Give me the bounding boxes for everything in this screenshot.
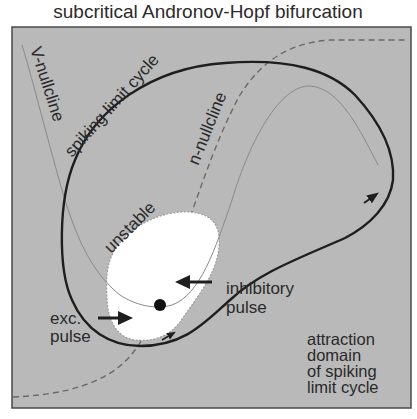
inhibitory-pulse-label: inhibitory xyxy=(226,279,295,298)
exc-pulse-label: pulse xyxy=(50,327,91,346)
attraction-domain-label: limit cycle xyxy=(307,378,379,396)
inhibitory-pulse-label: pulse xyxy=(226,298,267,317)
stable-fixed-point xyxy=(154,299,166,311)
figure-title: subcritical Andronov-Hopf bifurcation xyxy=(53,1,362,22)
exc-pulse-label: exc. xyxy=(50,309,81,328)
phase-portrait-figure: subcritical Andronov-Hopf bifurcation V-… xyxy=(0,0,417,419)
